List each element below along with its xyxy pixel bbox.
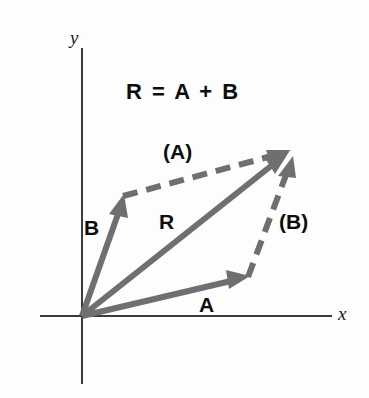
vector-A-translated-shaft: [123, 156, 272, 196]
vector-R-label: R: [159, 211, 174, 232]
vector-diagram-canvas: [0, 0, 369, 398]
y-axis-label: y: [70, 28, 78, 47]
vector-B-label: B: [84, 217, 99, 238]
vector-A-translated-label: (A): [163, 141, 192, 162]
x-axis-label: x: [338, 304, 346, 323]
vector-addition-figure: y x R = A + B (A) (B) R A B: [0, 0, 369, 398]
vector-B-translated-label: (B): [279, 211, 308, 232]
vector-A-label: A: [199, 294, 214, 315]
equation-text: R = A + B: [126, 81, 240, 103]
